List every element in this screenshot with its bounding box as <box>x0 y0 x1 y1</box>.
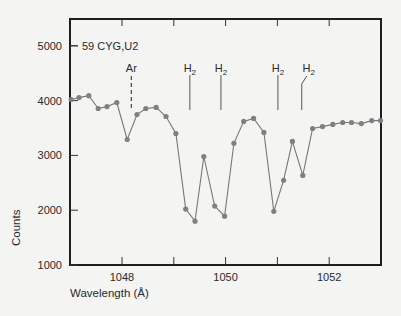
x-tick-label: 1050 <box>213 271 237 283</box>
data-point <box>369 118 374 123</box>
y-tick-label: 1000 <box>38 259 62 271</box>
data-point <box>212 204 217 209</box>
data-point <box>173 131 178 136</box>
y-axis-title: Counts <box>10 209 22 246</box>
data-point <box>143 106 148 111</box>
y-tick-label: 5000 <box>38 40 62 52</box>
data-point <box>241 119 246 124</box>
y-tick-label: 3000 <box>38 149 62 161</box>
data-point <box>340 120 345 125</box>
data-point <box>349 120 354 125</box>
x-tick-label: 1048 <box>110 271 134 283</box>
data-point <box>201 154 206 159</box>
plot-frame <box>70 19 381 265</box>
data-point <box>192 219 197 224</box>
h2-marker: H2 <box>302 62 316 110</box>
marker-label: H2 <box>303 62 316 77</box>
series-line <box>70 96 381 222</box>
data-point <box>251 116 256 121</box>
h2-marker: H2 <box>184 62 197 110</box>
y-tick-label: 4000 <box>38 95 62 107</box>
y-tick-label: 2000 <box>38 204 62 216</box>
plot-border <box>70 19 381 265</box>
data-point <box>183 207 188 212</box>
data-point <box>359 121 364 126</box>
data-point <box>222 214 227 219</box>
data-point <box>290 139 295 144</box>
data-point <box>330 122 335 127</box>
data-point <box>125 137 130 142</box>
marker-label: H2 <box>272 62 285 77</box>
data-point <box>271 209 276 214</box>
data-point <box>104 104 109 109</box>
data-point <box>96 106 101 111</box>
line-annotations: ArH2H2H2H2 <box>126 62 316 111</box>
data-point <box>281 178 286 183</box>
series-label: 59 CYG,U2 <box>82 40 138 52</box>
data-point <box>310 126 315 131</box>
marker-label: Ar <box>126 62 137 74</box>
data-point <box>154 105 159 110</box>
data-point <box>320 124 325 129</box>
data-point <box>378 118 383 123</box>
data-point <box>76 95 81 100</box>
data-point <box>114 100 119 105</box>
data-point <box>69 97 74 102</box>
data-point <box>163 114 168 119</box>
x-axis-title: Wavelength (Å) <box>70 287 149 299</box>
h2-marker: H2 <box>215 62 228 110</box>
x-tick-label: 1052 <box>317 271 341 283</box>
marker-label: H2 <box>215 62 228 77</box>
data-point <box>261 130 266 135</box>
h2-marker: H2 <box>272 62 285 110</box>
spectrum-chart: 10481050105210002000300040005000 ArH2H2H… <box>0 0 401 316</box>
ar-marker: Ar <box>126 62 137 111</box>
data-point <box>134 112 139 117</box>
data-point <box>300 173 305 178</box>
data-point <box>231 141 236 146</box>
data-series <box>69 93 384 224</box>
data-point <box>86 93 91 98</box>
marker-label: H2 <box>184 62 197 77</box>
